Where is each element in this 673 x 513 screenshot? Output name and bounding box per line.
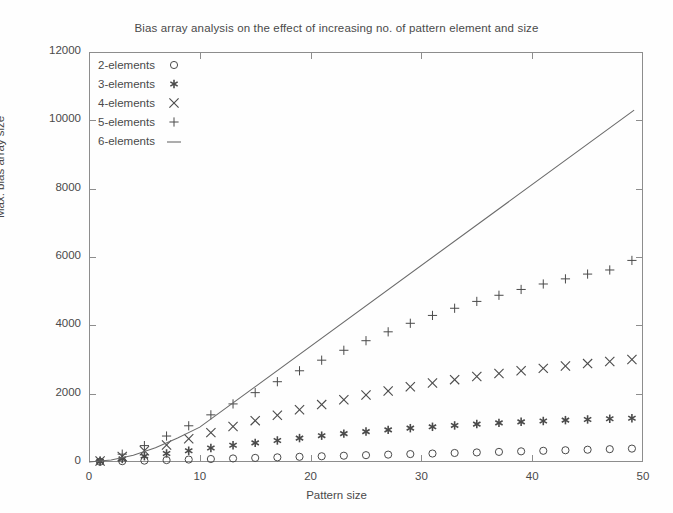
y-tick-mark <box>89 120 96 121</box>
cross-marker <box>166 95 182 111</box>
x-tick-label: 30 <box>396 470 446 482</box>
asterisk-marker <box>166 76 182 92</box>
legend-item-6-elements[interactable]: 6-elements <box>98 133 218 152</box>
chart-title: Bias array analysis on the effect of inc… <box>0 22 673 34</box>
legend-item-label: 5-elements <box>98 116 155 128</box>
chart-page: Bias array analysis on the effect of inc… <box>0 0 673 513</box>
y-tick-label: 6000 <box>18 249 81 261</box>
line-marker <box>166 133 182 149</box>
legend-item-4-elements[interactable]: 4-elements <box>98 95 218 114</box>
x-tick-mark <box>532 455 533 462</box>
x-tick-mark <box>200 455 201 462</box>
y-axis-label: Max. bias array size <box>0 116 6 218</box>
y-tick-mark <box>636 394 643 395</box>
plus-marker <box>166 114 182 130</box>
x-tick-label: 0 <box>64 470 114 482</box>
y-tick-label: 10000 <box>18 112 81 124</box>
legend-item-5-elements[interactable]: 5-elements <box>98 114 218 133</box>
plus-marker <box>169 117 178 126</box>
x-axis-label: Pattern size <box>0 489 673 501</box>
x-tick-mark <box>532 52 533 59</box>
y-tick-mark <box>636 189 643 190</box>
circle-marker <box>166 57 182 73</box>
y-tick-label: 2000 <box>18 386 81 398</box>
y-tick-label: 0 <box>18 454 81 466</box>
legend-item-2-elements[interactable]: 2-elements <box>98 57 218 76</box>
y-tick-mark <box>636 257 643 258</box>
asterisk-marker <box>170 80 177 88</box>
legend-item-label: 6-elements <box>98 135 155 147</box>
x-tick-label: 40 <box>507 470 557 482</box>
chart-legend: 2-elements3-elements4-elements5-elements… <box>98 57 218 152</box>
cross-marker <box>169 98 178 107</box>
y-tick-mark <box>89 394 96 395</box>
y-tick-mark <box>89 189 96 190</box>
legend-item-label: 2-elements <box>98 59 155 71</box>
x-tick-label: 20 <box>286 470 336 482</box>
y-tick-mark <box>89 325 96 326</box>
x-tick-mark <box>421 455 422 462</box>
y-tick-mark <box>89 257 96 258</box>
legend-item-3-elements[interactable]: 3-elements <box>98 76 218 95</box>
y-tick-label: 4000 <box>18 317 81 329</box>
y-tick-mark <box>636 120 643 121</box>
legend-item-label: 4-elements <box>98 97 155 109</box>
y-tick-mark <box>636 325 643 326</box>
legend-item-label: 3-elements <box>98 78 155 90</box>
x-tick-mark <box>311 455 312 462</box>
y-tick-label: 12000 <box>18 44 81 56</box>
x-tick-mark <box>421 52 422 59</box>
x-tick-label: 10 <box>175 470 225 482</box>
circle-marker <box>170 61 177 68</box>
x-tick-label: 50 <box>618 470 668 482</box>
y-tick-label: 8000 <box>18 181 81 193</box>
x-tick-mark <box>311 52 312 59</box>
